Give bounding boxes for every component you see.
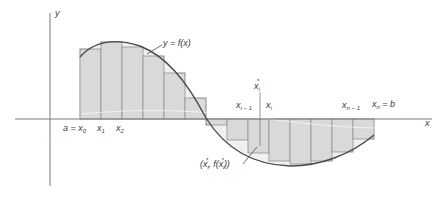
label-xi-minus-1: xi − 1 (235, 100, 252, 111)
label-a-x0: a = x0 (63, 123, 87, 134)
curve-label-leader (147, 45, 162, 54)
label-xi: xi (265, 100, 273, 111)
label-x1: x1 (96, 123, 105, 134)
riemann-sum-diagram: y x y = f(x) a = x0 x1 x2 xi* xi − 1 xi … (0, 0, 446, 197)
x-axis-label: x (424, 118, 430, 128)
label-xn-minus-1: xn − 1 (341, 100, 360, 111)
curve-area-shade (80, 41, 374, 166)
label-x2: x2 (115, 123, 125, 134)
label-xi-star: xi* (253, 78, 261, 92)
label-xn-b: xn = b (371, 99, 395, 110)
sample-point-label: (xi*, f(xi*)) (200, 157, 230, 170)
y-axis-label: y (54, 8, 60, 18)
curve-label: y = f(x) (162, 38, 191, 48)
